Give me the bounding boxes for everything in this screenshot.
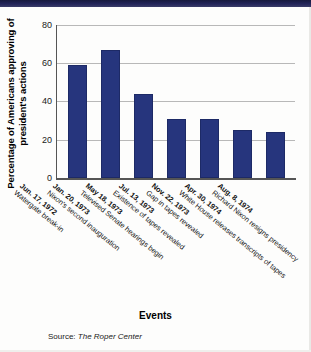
bar[interactable]: [101, 50, 120, 178]
gridline-80: [57, 25, 295, 26]
chart-figure: Percentage of Americans approving of pre…: [0, 0, 311, 352]
gridline-60: [57, 63, 295, 64]
y-tick-label-80: 80: [42, 20, 52, 30]
bar[interactable]: [68, 65, 87, 178]
y-tick-label-40: 40: [42, 96, 52, 106]
y-axis-line: [56, 25, 57, 179]
x-axis-category-labels: Jun. 17, 1972 Watergate break-in Jan. 20…: [0, 178, 311, 308]
gridline-40: [57, 101, 295, 102]
y-tick-label-20: 20: [42, 135, 52, 145]
source-name: The Roper Center: [78, 332, 142, 341]
x-axis-title: Events: [0, 310, 311, 321]
y-tick-label-60: 60: [42, 58, 52, 68]
source-note: Source: The Roper Center: [48, 332, 142, 341]
page-top-band: [0, 0, 311, 7]
y-axis-title: Percentage of Americans approving of pre…: [5, 16, 28, 192]
bar[interactable]: [266, 132, 285, 178]
bar[interactable]: [167, 119, 186, 178]
bar[interactable]: [200, 119, 219, 178]
bar[interactable]: [134, 94, 153, 178]
bar[interactable]: [233, 130, 252, 178]
source-prefix: Source:: [48, 332, 76, 341]
plot-area: 80 60 40 20 0: [57, 25, 295, 178]
